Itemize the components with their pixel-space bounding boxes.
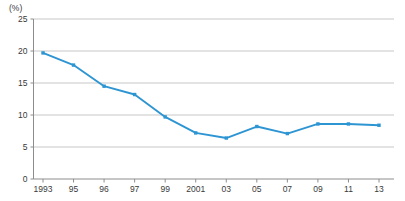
x-tick-label-1993: 1993 bbox=[34, 184, 53, 194]
y-tick-label-10: 10 bbox=[18, 110, 28, 120]
y-axis-unit-label: (%) bbox=[9, 3, 22, 13]
data-point-marker bbox=[286, 132, 289, 135]
x-tick-label-11: 11 bbox=[344, 184, 353, 194]
chart-canvas: 0510152025(%)199395969799200103050709111… bbox=[0, 0, 405, 201]
x-tick-label-96: 96 bbox=[99, 184, 109, 194]
data-point-marker bbox=[255, 125, 258, 128]
data-point-marker bbox=[377, 124, 380, 127]
x-tick-label-09: 09 bbox=[313, 184, 323, 194]
x-tick-label-2001: 2001 bbox=[186, 184, 205, 194]
data-point-marker bbox=[225, 136, 228, 139]
x-tick-label-97: 97 bbox=[130, 184, 140, 194]
x-tick-label-99: 99 bbox=[160, 184, 170, 194]
y-tick-label-5: 5 bbox=[23, 142, 28, 152]
data-point-marker bbox=[102, 85, 105, 88]
y-tick-label-20: 20 bbox=[18, 46, 28, 56]
line-chart: 0510152025(%)199395969799200103050709111… bbox=[0, 0, 405, 201]
data-point-marker bbox=[347, 122, 350, 125]
data-point-marker bbox=[72, 63, 75, 66]
y-tick-label-0: 0 bbox=[23, 174, 28, 184]
series-line bbox=[43, 53, 379, 138]
x-tick-label-95: 95 bbox=[69, 184, 79, 194]
data-point-marker bbox=[133, 93, 136, 96]
x-tick-label-05: 05 bbox=[252, 184, 262, 194]
data-point-marker bbox=[316, 122, 319, 125]
data-point-marker bbox=[41, 51, 44, 54]
data-point-marker bbox=[194, 131, 197, 134]
x-tick-label-07: 07 bbox=[283, 184, 293, 194]
x-tick-label-13: 13 bbox=[374, 184, 384, 194]
y-tick-label-15: 15 bbox=[18, 78, 28, 88]
data-point-marker bbox=[163, 115, 166, 118]
x-tick-label-03: 03 bbox=[222, 184, 232, 194]
y-tick-label-25: 25 bbox=[18, 14, 28, 24]
